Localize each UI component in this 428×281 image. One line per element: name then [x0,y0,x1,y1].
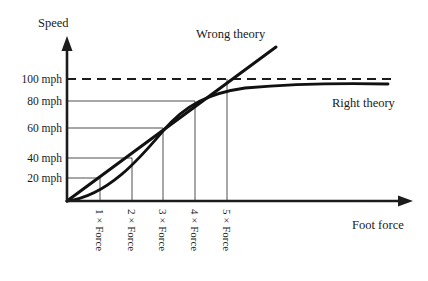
x-tick-label-1x-force: 1 × Force [94,209,105,251]
y-tick-label-100mph: 100 mph [10,74,62,86]
x-tick-label-5x-force: 5 × Force [221,209,232,251]
chart-canvas [0,0,428,281]
x-tick-label-3x-force: 3 × Force [157,209,168,251]
wrong-theory-label: Wrong theory [196,28,265,41]
y-tick-label-20mph: 20 mph [10,173,62,185]
x-axis-arrow-icon [398,196,413,207]
speed-vs-foot-force-chart: Speed Foot force 100 mph 80 mph 60 mph 4… [0,0,428,281]
y-axis-arrow-icon [62,36,73,51]
y-tick-label-40mph: 40 mph [10,153,62,165]
x-tick-label-2x-force: 2 × Force [126,209,137,251]
y-axis-title: Speed [38,17,69,30]
x-tick-label-4x-force: 4 × Force [189,209,200,251]
right-theory-label: Right theory [332,97,395,110]
y-tick-label-60mph: 60 mph [10,123,62,135]
y-tick-label-80mph: 80 mph [10,96,62,108]
wrong-theory-line [67,47,276,201]
x-axis-title: Foot force [352,219,404,232]
